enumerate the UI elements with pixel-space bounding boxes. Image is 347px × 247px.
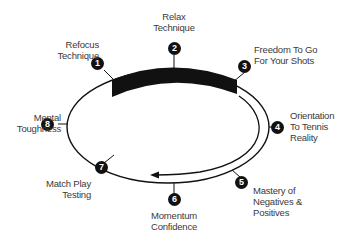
step-label-6: MomentumConfidence	[139, 210, 209, 232]
step-badge-2: 2	[168, 42, 181, 55]
thick-top-arc	[112, 68, 237, 98]
step-label-7: Match PlayTesting	[46, 178, 91, 200]
return-arrow-path	[155, 96, 259, 175]
step-badge-6: 6	[168, 193, 181, 206]
step-label-4: OrientationTo TennisReality	[290, 110, 334, 143]
step-label-5: Mastery ofNegatives &Positives	[253, 185, 302, 218]
step-badge-4: 4	[271, 121, 284, 134]
step-badge-5: 5	[235, 176, 248, 189]
step-label-1: RefocusTechnique	[57, 39, 99, 61]
step-badge-7: 7	[95, 161, 108, 174]
step-label-3: Freedom To GoFor Your Shots	[254, 44, 317, 66]
step-label-8: MentalToughness	[17, 112, 61, 134]
step-badge-3: 3	[238, 60, 251, 73]
step-label-2: RelaxTechnique	[144, 11, 204, 33]
arrow-head-icon	[150, 172, 159, 179]
